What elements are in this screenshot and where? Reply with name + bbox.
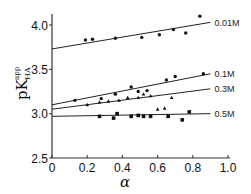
data-point-dot — [130, 85, 133, 88]
labels: αpKappHA — [13, 66, 130, 191]
data-point-triangle — [149, 94, 153, 97]
series-label: 0.1M — [214, 69, 234, 79]
data-point-square — [112, 116, 116, 120]
axes: 2.53.03.54.000.20.40.60.81.0 — [31, 14, 236, 175]
series-0-3M: 0.3M — [52, 84, 234, 110]
data-point-triangle — [170, 96, 174, 99]
y-tick-label: 3.5 — [31, 63, 48, 77]
data-point-dot — [174, 75, 177, 78]
data-point-dot — [202, 72, 205, 75]
data-point-square — [187, 110, 191, 114]
x-tick-label: 1.0 — [220, 161, 237, 175]
data-point-square — [142, 115, 146, 119]
y-tick-label: 3.0 — [31, 107, 48, 121]
x-tick-label: 0.6 — [149, 161, 166, 175]
series-layer: 0.01M0.1M0.3M0.5M — [52, 14, 239, 121]
y-axis-title-sub: HA — [23, 67, 32, 80]
data-point-dot — [158, 33, 161, 36]
data-point-dot — [84, 38, 87, 41]
series-label: 0.01M — [214, 18, 239, 28]
y-axis-title-sup: app — [13, 66, 21, 80]
data-point-square — [115, 112, 119, 116]
data-point-square — [129, 115, 133, 119]
data-point-dot — [184, 31, 187, 34]
data-point-dot — [145, 89, 148, 92]
y-axis-title-main: pK — [13, 78, 31, 100]
data-point-triangle — [126, 96, 130, 99]
data-point-square — [98, 115, 102, 119]
series-label: 0.5M — [214, 109, 234, 119]
fit-line — [52, 22, 210, 49]
data-point-square — [149, 115, 153, 119]
data-point-triangle — [107, 99, 111, 102]
series-0-1M: 0.1M — [52, 69, 234, 105]
data-point-dot — [140, 36, 143, 39]
data-point-dot — [100, 97, 103, 100]
series-label: 0.3M — [214, 84, 234, 94]
data-point-dot — [73, 99, 76, 102]
series-0-5M: 0.5M — [52, 109, 234, 122]
x-tick-label: 0 — [49, 161, 56, 175]
data-point-dot — [114, 37, 117, 40]
x-tick-label: 0.8 — [184, 161, 201, 175]
data-point-dot — [114, 92, 117, 95]
y-axis-title: pKappHA — [13, 66, 32, 100]
data-point-dot — [91, 37, 94, 40]
chart: 2.53.03.54.000.20.40.60.81.0 0.01M0.1M0.… — [0, 0, 251, 194]
data-point-triangle — [98, 100, 102, 103]
y-tick-label: 4.0 — [31, 19, 48, 33]
data-point-triangle — [136, 96, 140, 99]
data-point-dot — [165, 78, 168, 81]
data-point-triangle — [142, 92, 146, 95]
x-axis-title: α — [120, 173, 130, 191]
data-point-triangle — [156, 107, 160, 110]
data-point-dot — [172, 28, 175, 31]
data-point-triangle — [163, 106, 167, 109]
data-point-dot — [198, 14, 201, 17]
data-point-dot — [137, 90, 140, 93]
series-0-01M: 0.01M — [52, 14, 239, 49]
data-point-square — [136, 114, 140, 118]
data-point-square — [180, 118, 184, 122]
x-tick-label: 0.2 — [79, 161, 96, 175]
data-point-square — [166, 115, 170, 119]
y-tick-label: 2.5 — [31, 152, 48, 166]
